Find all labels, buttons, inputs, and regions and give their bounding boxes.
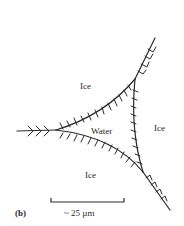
hatch-marks: [28, 47, 167, 201]
boundary-left-arm: [17, 130, 56, 131]
grain-boundaries: [17, 38, 170, 210]
water-edge-right: [134, 79, 143, 172]
label-ice-bottom: Ice: [85, 170, 96, 180]
label-water: Water: [91, 126, 112, 136]
scale-bar-line: [51, 198, 124, 202]
scale-bar-label: ~ 25 µm: [64, 208, 95, 218]
scale-bar: [51, 198, 124, 202]
label-ice-right: Ice: [154, 123, 165, 133]
region-labels: Ice Water Ice Ice: [80, 81, 165, 180]
boundary-top-right-arm: [135, 38, 155, 79]
label-ice-top: Ice: [80, 81, 91, 91]
panel-label: (b): [15, 208, 26, 218]
triple-junction-diagram: Ice Water Ice Ice ~ 25 µm (b): [0, 0, 184, 226]
